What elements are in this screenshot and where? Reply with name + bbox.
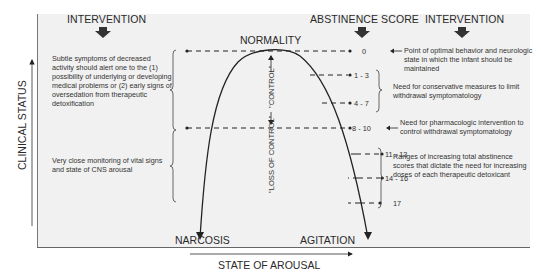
score-8-10: 8 - 10 <box>352 124 371 133</box>
header-right-intervention: INTERVENTION <box>425 13 504 25</box>
left-note-decreased-activity: Subtle symptoms of decreased activity sh… <box>52 55 172 108</box>
label-agitation: AGITATION <box>300 234 355 246</box>
right-note-optimal: Point of optimal behavior and neurologic… <box>404 47 536 74</box>
right-note-ranges: Ranges of increasing total abstinence sc… <box>393 153 533 180</box>
score-0: 0 <box>362 47 366 56</box>
score-17: 17 <box>393 199 401 208</box>
arrow-agitation <box>364 232 372 240</box>
label-loss-of-control: "LOSS OF CONTROL" <box>267 115 276 193</box>
score-4-7: 4 - 7 <box>354 99 369 108</box>
arousal-curve <box>200 50 368 238</box>
y-axis-label: CLINICAL STATUS <box>16 80 28 170</box>
label-normality: NORMALITY <box>240 34 301 46</box>
label-control: "CONTROL" <box>267 65 276 108</box>
arrow-down-icon <box>354 27 370 38</box>
left-note-monitoring: Very close monitoring of vital signs and… <box>52 157 164 175</box>
arrow-down-icon <box>454 27 470 38</box>
right-note-pharmacologic: Need for pharmacologic intervention to c… <box>400 119 535 137</box>
header-abstinence-score: ABSTINENCE SCORE <box>310 13 419 25</box>
label-narcosis: NARCOSIS <box>175 234 230 246</box>
arrow-down-icon <box>95 27 111 38</box>
score-1-3: 1 - 3 <box>354 71 369 80</box>
header-left-intervention: INTERVENTION <box>67 13 146 25</box>
right-note-conservative: Need for conservative measures to limit … <box>393 83 533 101</box>
x-axis-label: STATE OF AROUSAL <box>218 259 320 271</box>
